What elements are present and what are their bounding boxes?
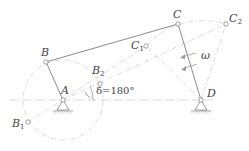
omega-arrowhead-1 [180,54,185,59]
rocker-arc [146,21,226,46]
label-C1: C1 [131,39,144,53]
joint-A [61,98,65,102]
joint-C2 [224,22,228,26]
linkage-diagram: A B B1 B2 C C1 C2 D δ=180° ω [0,0,249,151]
joint-B1 [26,120,30,124]
label-D: D [206,87,216,100]
limit-line-A-C2 [63,24,226,100]
delta-angle-arc [90,86,93,100]
label-B2: B2 [91,64,105,78]
rocker-CD [178,24,201,100]
joint-B [44,60,48,64]
joint-C [176,22,180,26]
omega-label: ω [201,49,210,62]
coupler-BC [46,24,178,62]
label-B: B [40,46,49,59]
label-C2: C2 [229,12,242,26]
joint-D [199,98,203,102]
joint-C1 [144,44,148,48]
delta-angle-arc-inner [85,92,90,98]
label-A: A [60,84,69,97]
label-C: C [173,8,182,21]
label-B1: B1 [11,117,25,131]
delta-angle-label: δ=180° [96,85,135,96]
omega-arrowhead-2 [181,66,186,71]
